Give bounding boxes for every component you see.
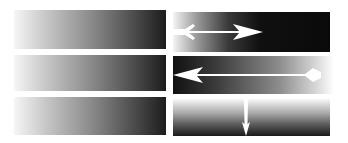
gradient-bar-right-2 <box>173 56 348 94</box>
arrow-down-icon <box>173 98 330 136</box>
arrow-right-icon <box>173 12 330 52</box>
gradient-bar-left-3 <box>14 97 166 135</box>
gradient-bar-left-2 <box>14 55 166 91</box>
arrow-left-icon <box>173 56 348 94</box>
gradient-bar-right-1 <box>173 12 330 52</box>
gradient-bar-right-3 <box>173 98 330 136</box>
gradient-bar-left-1 <box>14 10 166 49</box>
